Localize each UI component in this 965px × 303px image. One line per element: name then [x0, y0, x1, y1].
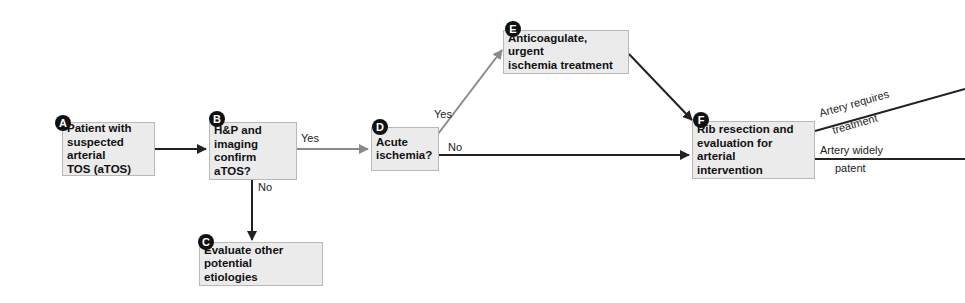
node-c-line-1: Evaluate other potential	[204, 244, 283, 270]
badge-b: B	[209, 111, 225, 127]
node-f-rib-resection: Rib resection andevaluation for arterial…	[692, 121, 815, 179]
node-f-line-2: evaluation for arterial	[697, 137, 772, 163]
badge-a: A	[55, 115, 71, 131]
badge-d: D	[372, 119, 388, 135]
edge-label-b-yes: Yes	[301, 132, 319, 144]
node-f-line-1: Rib resection and	[697, 123, 794, 135]
node-a-line-1: Patient with	[67, 122, 132, 134]
node-f-line-3: intervention	[697, 164, 763, 176]
node-b-line-3: confirm aTOS?	[214, 151, 256, 177]
node-c-evaluate-other-etiologies: Evaluate other potentialetiologies	[199, 242, 323, 286]
badge-c: C	[198, 234, 214, 250]
node-a-line-2: suspected arterial	[67, 136, 124, 162]
node-e-anticoagulate: Anticoagulate, urgentischemia treatment	[503, 30, 629, 74]
node-a-line-3: TOS (aTOS)	[67, 163, 131, 175]
node-d-line-1: Acute	[376, 136, 408, 148]
node-d-line-2: ischemia?	[376, 149, 432, 161]
node-c-line-2: etiologies	[204, 271, 258, 283]
edge-label-d-no: No	[448, 141, 462, 153]
edge-label-f-lower-line-2: patent	[835, 162, 866, 174]
badge-f: F	[693, 112, 709, 128]
edge-e-f	[629, 54, 692, 120]
badge-e: E	[505, 21, 521, 37]
node-b-confirm-atos: H&P andimagingconfirm aTOS?	[209, 122, 297, 180]
edge-label-f-lower-line-1: Artery widely	[820, 144, 883, 156]
node-e-line-2: ischemia treatment	[508, 59, 613, 71]
edge-label-d-yes: Yes	[434, 108, 452, 120]
node-e-line-1: Anticoagulate, urgent	[508, 32, 587, 58]
node-b-line-2: imaging	[214, 138, 258, 150]
edge-label-b-no: No	[258, 181, 272, 193]
node-a-patient-suspected-atos: Patient withsuspected arterialTOS (aTOS)	[62, 122, 155, 176]
edge-d-e-yes	[438, 50, 502, 134]
